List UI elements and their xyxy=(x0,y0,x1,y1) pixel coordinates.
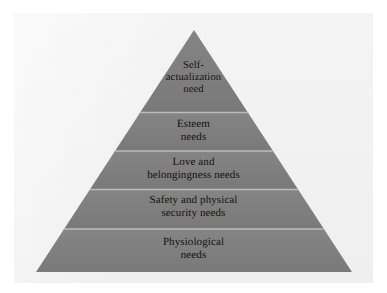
pyramid-graphic xyxy=(0,0,387,293)
pyramid-tier-3 xyxy=(0,151,387,190)
pyramid-tier-2 xyxy=(0,112,387,152)
pyramid-tier-1 xyxy=(0,28,387,114)
pyramid-tiers xyxy=(0,28,387,274)
pyramid-tier-4 xyxy=(0,189,387,230)
maslow-pyramid-figure: Self- actualization need Esteem needs Lo… xyxy=(0,0,387,293)
pyramid-tier-5 xyxy=(0,229,387,274)
